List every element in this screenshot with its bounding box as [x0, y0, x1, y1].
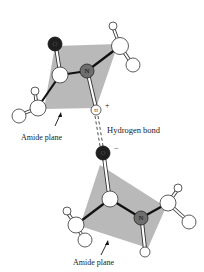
top-right-carbon	[112, 38, 129, 55]
top-left-h-large	[12, 109, 26, 123]
svg-text:N: N	[138, 214, 143, 222]
top-hydrogen-atom: H	[91, 105, 101, 115]
bottom-left-h-large	[78, 233, 92, 247]
top-carbonyl-carbon	[52, 67, 68, 83]
partial-negative-sign: −	[114, 144, 119, 153]
bottom-right-carbon	[160, 195, 176, 211]
partial-positive-sign: +	[105, 101, 110, 110]
bottom-amide-group: O N −	[63, 144, 196, 257]
top-left-h-small	[31, 87, 39, 95]
bottom-nitrogen-atom: N	[134, 211, 148, 225]
bottom-left-carbon	[68, 217, 84, 233]
top-left-carbon	[30, 100, 46, 116]
bottom-amide-plane-arrow	[101, 240, 109, 255]
top-right-h-large	[126, 58, 140, 72]
bottom-amide-hydrogen	[140, 247, 150, 257]
bottom-right-h-small	[174, 184, 182, 192]
top-amide-plane-arrow	[55, 112, 62, 126]
hydrogen-bond	[95, 116, 103, 146]
svg-text:O: O	[52, 40, 57, 48]
top-nitrogen-atom: N	[80, 64, 94, 78]
top-right-h-small	[109, 22, 117, 30]
bottom-oxygen-atom: O	[96, 146, 110, 160]
bottom-right-h-large	[182, 215, 196, 229]
top-amide-group: O N H +	[12, 22, 140, 123]
top-oxygen-atom: O	[48, 37, 62, 51]
top-amide-plane-label: Amide plane	[21, 133, 63, 142]
svg-text:H: H	[94, 108, 98, 113]
bottom-left-h-small	[63, 207, 71, 215]
svg-text:O: O	[100, 149, 105, 157]
hydrogen-bond-diagram: O N H + Hydrogen bond Amide plane	[0, 0, 204, 272]
bottom-carbonyl-carbon	[102, 191, 118, 207]
bottom-amide-plane-label: Amide plane	[73, 258, 115, 267]
svg-text:N: N	[84, 67, 89, 75]
hydrogen-bond-label: Hydrogen bond	[107, 125, 161, 135]
